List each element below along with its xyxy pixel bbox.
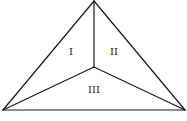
region-label-2: II — [110, 46, 118, 57]
region-label-3: III — [88, 84, 100, 95]
segment-interior-right — [94, 67, 185, 110]
edge-left — [3, 1, 94, 110]
triangle-diagram: I II III — [0, 0, 187, 121]
edge-right — [94, 1, 185, 110]
region-label-1: I — [69, 46, 73, 57]
segment-interior-left — [3, 67, 94, 110]
